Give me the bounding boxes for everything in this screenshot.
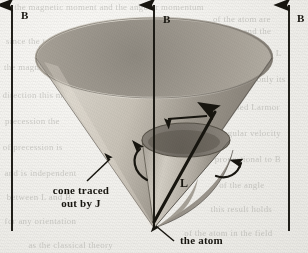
atom-label: the atom (180, 234, 223, 246)
field-label-left: B (21, 9, 29, 21)
field-label-center: B (163, 13, 171, 25)
figure-vector-layer (0, 0, 308, 253)
atom-label-leader (156, 226, 174, 241)
cone-label-leader (87, 159, 110, 181)
precession-cone-figure: the magnetic moment and the angular mome… (0, 0, 308, 253)
angular-momentum-label: L (180, 176, 188, 191)
cone-label-line1: cone traced (53, 184, 109, 196)
inner-cone-mouth-shadow (148, 130, 220, 154)
field-label-right: B (297, 12, 305, 24)
cone-label-line2: out by (61, 197, 92, 209)
cone-label: cone traced out by J (31, 184, 131, 210)
cone-label-symbol-j: J (95, 197, 101, 209)
